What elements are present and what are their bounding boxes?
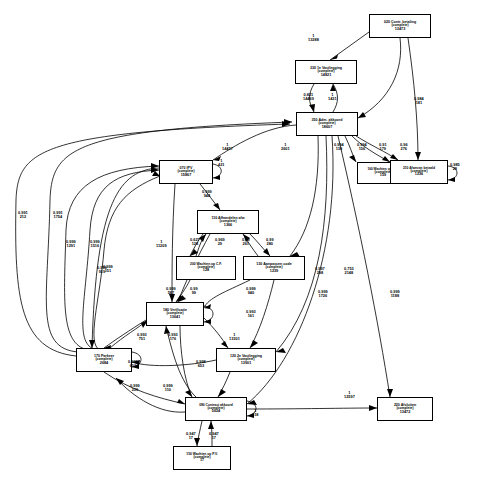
edge-frequency: 918 xyxy=(252,413,259,417)
node-130-aanpassen-code[interactable]: 130 Aanpassen code (complete) 1239 xyxy=(243,256,305,280)
node-220-afsluiten[interactable]: 220 Afsluiten (complete) 13472 xyxy=(377,397,433,421)
edge-label: 0,997 298 xyxy=(315,267,325,276)
edge-frequency: 2148 xyxy=(344,271,354,275)
node-210-afwezen-betaald[interactable]: 210 Afwezan betaald (complete) 1236 xyxy=(390,160,448,184)
node-count: 128 xyxy=(203,269,209,273)
node-count: 1239 xyxy=(270,270,278,274)
edge-frequency: 99 xyxy=(190,291,198,295)
edge-label: 0,994 156 xyxy=(357,143,367,152)
edge-label: 0,984 181 xyxy=(414,97,424,106)
node-120-2e-vastlegging[interactable]: 120 2e Vastlegging (complete) 13901 xyxy=(216,348,276,372)
edge-label: 0,999 587 xyxy=(166,287,176,296)
edge-frequency: 29 xyxy=(215,242,225,246)
edge-label: 0,994 138 xyxy=(334,143,344,152)
edge-frequency: 1516 xyxy=(90,244,100,248)
edge-frequency: 11209 xyxy=(156,244,167,248)
edge-frequency: 12597 xyxy=(344,395,355,399)
edge-frequency: 138 xyxy=(334,147,344,151)
edge-frequency: 1291 xyxy=(66,244,76,248)
edge-frequency: 17 xyxy=(209,436,219,440)
edge-label: 0,947 17 xyxy=(186,432,196,441)
edge-frequency: 653 xyxy=(196,364,206,368)
edge-frequency: 940 xyxy=(246,291,256,295)
edge-label: 0,999 940 xyxy=(246,287,256,296)
edge-frequency: 1754 xyxy=(53,215,63,219)
edge-frequency: 28 xyxy=(450,167,460,171)
edge-label: 0,991 1754 xyxy=(53,211,63,220)
edge-frequency: 13301 xyxy=(229,337,240,341)
edge-label: 0,993 176 xyxy=(168,333,178,342)
edge-label: 0,999 1726 xyxy=(318,290,328,299)
edge-frequency: 276 xyxy=(400,147,408,151)
node-count: 13901 xyxy=(241,362,252,366)
edge-label: 1 2601 xyxy=(281,143,290,152)
edge-label: 1 14457 xyxy=(222,143,233,152)
edge-label: 0,998 653 xyxy=(196,360,206,369)
node-350-adm-akkoord[interactable]: 350 Adm. akkoord (complete) 18607 xyxy=(296,112,358,136)
edge-label: 1 918 xyxy=(252,409,259,418)
node-count: 1236 xyxy=(415,173,423,177)
edge-frequency: 179 xyxy=(379,147,387,151)
edge-label: 0,999 944 xyxy=(202,190,212,199)
node-count: 13641 xyxy=(170,316,181,320)
edge-label: 1 11209 xyxy=(156,240,167,249)
edge-frequency: 944 xyxy=(202,194,212,198)
edge-frequency: 1421 xyxy=(328,97,337,101)
edge-label: 0,999 239 xyxy=(130,384,140,393)
edge-frequency: 650 xyxy=(128,364,138,368)
node-count: 1366 xyxy=(224,224,232,228)
node-count: 159 xyxy=(380,174,386,178)
edge-label: 0,627 128 xyxy=(190,238,200,247)
edge-label: 0,999 1188 xyxy=(390,290,400,299)
node-330-1e-vastlegging[interactable]: 330 1e Vastlegging (complete) 14821 xyxy=(295,60,357,84)
node-200-wachten-op-cf[interactable]: 200 Wachten op C.F. (complete) 128 xyxy=(176,256,236,280)
edge-frequency: 280 xyxy=(266,242,274,246)
edge-label: 0,999 110 xyxy=(163,384,173,393)
edge-label: 0,99 280 xyxy=(266,238,274,247)
edge-label: 0,821 14469 xyxy=(303,93,314,102)
edge-frequency: 156 xyxy=(357,147,367,151)
edge-frequency: 239 xyxy=(130,388,140,392)
edge-label: 0,999 1291 xyxy=(66,240,76,249)
edge-label: 1 421 xyxy=(218,159,225,168)
edge-label: 0,947 17 xyxy=(209,432,219,441)
node-180-verificatie[interactable]: 180 Verificatie (complete) 13641 xyxy=(146,302,204,326)
edge-label: 1 1421 xyxy=(328,93,337,102)
edge-frequency: 919 xyxy=(97,270,107,274)
edge-label: 0,999 919 xyxy=(97,266,107,275)
edge-label: 1 13301 xyxy=(229,333,240,342)
edge-frequency: 1188 xyxy=(390,294,400,298)
edge-frequency: 14457 xyxy=(222,147,233,151)
edge-frequency: 110 xyxy=(163,388,173,392)
edge-frequency: 181 xyxy=(414,101,424,105)
edge-frequency: 751 xyxy=(137,337,147,341)
edge-label: 0,99 99 xyxy=(190,287,198,296)
edge-label: 0,99 261 xyxy=(242,238,250,247)
edge-label: 0,999 650 xyxy=(128,360,138,369)
node-170-parkeer[interactable]: 170 Parkeer (complete) 2684 xyxy=(76,348,132,372)
edge-frequency: 128 xyxy=(190,242,200,246)
node-count: 15867 xyxy=(181,174,192,178)
node-090-contract-akkoord[interactable]: 090 Contract akkoord (complete) 5624 xyxy=(185,397,247,421)
edge-label: 0,985 28 xyxy=(450,163,460,172)
node-count: 2684 xyxy=(100,362,108,366)
edge-frequency: 261 xyxy=(242,242,250,246)
edge-label: 0,999 1516 xyxy=(90,240,100,249)
edge-label: 0,993 751 xyxy=(137,333,147,342)
edge-frequency: 212 xyxy=(18,215,28,219)
edge-frequency: 298 xyxy=(315,271,325,275)
edge-label: 1 13288 xyxy=(308,34,319,43)
node-070-ipv[interactable]: 070 IPV (complete) 15867 xyxy=(159,160,213,184)
edge-label: 0,991 212 xyxy=(18,211,28,220)
node-150-wachten-op-pv[interactable]: 150 Wachten op P.V. (complete) 17 xyxy=(173,446,231,470)
edge-frequency: 1726 xyxy=(318,294,328,298)
edge-label: 0,91 179 xyxy=(379,143,387,152)
node-020-contr-betaling[interactable]: 020 Contr. betaling (complete) 13473 xyxy=(369,14,431,38)
node-110-afhandelen-afw[interactable]: 110 Afhandelen afw (complete) 1366 xyxy=(197,210,259,234)
edge-frequency: 2601 xyxy=(281,147,290,151)
process-model-canvas: 020 Contr. betaling (complete) 13473 330… xyxy=(0,0,477,483)
node-count: 5624 xyxy=(212,410,220,414)
edge-label: 1 12597 xyxy=(344,391,355,400)
node-count: 13473 xyxy=(395,28,406,32)
edge-frequency: 13288 xyxy=(308,38,319,42)
